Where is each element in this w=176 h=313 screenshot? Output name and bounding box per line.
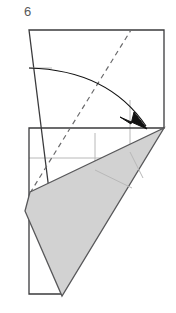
- origami-diagram-figure: 6: [0, 0, 176, 313]
- diagram-canvas: [0, 0, 176, 313]
